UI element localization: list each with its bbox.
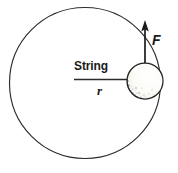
ball [124, 63, 163, 100]
string-label: String [74, 60, 108, 72]
force-label: F [152, 33, 161, 47]
radius-label: r [97, 84, 102, 97]
physics-diagram-figure: String r F [0, 0, 178, 173]
diagram-canvas [0, 0, 178, 173]
